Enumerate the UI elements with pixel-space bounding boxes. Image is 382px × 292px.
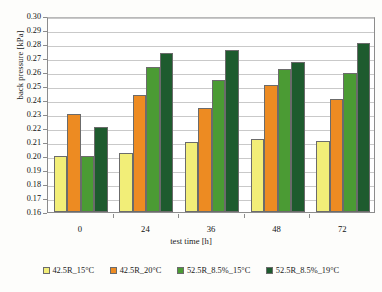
bar-group [48,18,114,212]
y-axis-tick: 0.18 [27,181,41,189]
x-axis-tick: 72 [338,224,347,234]
bar[interactable] [94,127,108,212]
legend-item[interactable]: 52.5R_8.5%_19°C [266,266,339,275]
bar[interactable] [185,142,199,212]
bar[interactable] [264,85,278,212]
bar[interactable] [330,99,344,212]
legend-swatch-icon [266,267,273,274]
y-axis-tick: 0.30 [27,13,41,21]
legend-swatch-icon [110,267,117,274]
bar[interactable] [160,53,174,212]
y-axis-tick: 0.28 [27,41,41,49]
legend-label: 42.5R_15°C [52,266,94,275]
y-axis-tick: 0.19 [27,167,41,175]
bar[interactable] [251,139,265,212]
y-axis-tick: 0.26 [27,69,41,77]
y-axis-tick: 0.27 [27,55,41,63]
bar[interactable] [278,69,292,213]
x-axis-tick-labels: 024364872 [47,214,375,236]
bar[interactable] [212,80,226,212]
y-axis-tick: 0.25 [27,83,41,91]
x-axis-tick-mark [309,214,310,218]
y-axis-tick-labels: 0.300.290.280.270.260.250.240.230.220.21… [0,17,45,213]
bar[interactable] [67,114,81,212]
x-axis-tick: 0 [78,224,82,234]
legend-label: 42.5R_20°C [120,266,162,275]
y-axis-tick: 0.16 [27,209,41,217]
legend-item[interactable]: 42.5R_20°C [110,266,161,275]
y-axis-tick: 0.29 [27,27,41,35]
bar-group [245,18,311,212]
bar-group [114,18,180,212]
legend-label: 52.5R_8.5%_15°C [187,266,250,275]
bar[interactable] [225,50,239,212]
legend-label: 52.5R_8.5%_19°C [276,266,339,275]
y-axis-tick: 0.20 [27,153,41,161]
bar[interactable] [81,156,95,212]
bar[interactable] [54,156,68,212]
x-axis-title: test time [h] [0,236,382,246]
bar[interactable] [357,43,371,212]
y-axis-tick: 0.22 [27,125,41,133]
bar[interactable] [146,67,160,212]
bar-groups [48,18,374,212]
y-axis-tick: 0.21 [27,139,41,147]
bar[interactable] [198,108,212,212]
legend-swatch-icon [43,267,50,274]
y-axis-tick: 0.17 [27,195,41,203]
plot-area [47,17,375,213]
chart-legend: 42.5R_15°C42.5R_20°C52.5R_8.5%_15°C52.5R… [0,266,382,275]
legend-item[interactable]: 42.5R_15°C [43,266,94,275]
bar[interactable] [343,73,357,212]
bar[interactable] [133,95,147,212]
x-axis-tick-mark [244,214,245,218]
x-axis-tick-mark [113,214,114,218]
x-axis-tick: 48 [272,224,281,234]
bar[interactable] [316,141,330,212]
x-axis-tick: 24 [141,224,150,234]
x-axis-tick-mark [178,214,179,218]
x-axis-tick: 36 [207,224,216,234]
legend-swatch-icon [177,267,184,274]
bar-group [310,18,375,212]
legend-item[interactable]: 52.5R_8.5%_15°C [177,266,250,275]
y-axis-tick: 0.24 [27,97,41,105]
bar[interactable] [291,62,305,213]
bar-chart: back pressure [kPa] 0.300.290.280.270.26… [0,0,382,292]
bar[interactable] [119,153,133,212]
bar-group [179,18,245,212]
y-axis-tick: 0.23 [27,111,41,119]
